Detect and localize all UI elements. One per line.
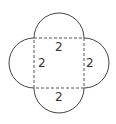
label-right: 2 [86, 57, 94, 69]
figure: 2 2 2 2 [0, 0, 116, 124]
label-top: 2 [55, 41, 63, 53]
label-left: 2 [38, 57, 46, 69]
left-semicircle [9, 38, 34, 88]
top-semicircle [34, 13, 84, 38]
label-bottom: 2 [55, 91, 63, 103]
square-with-semicircles-diagram [0, 0, 116, 124]
